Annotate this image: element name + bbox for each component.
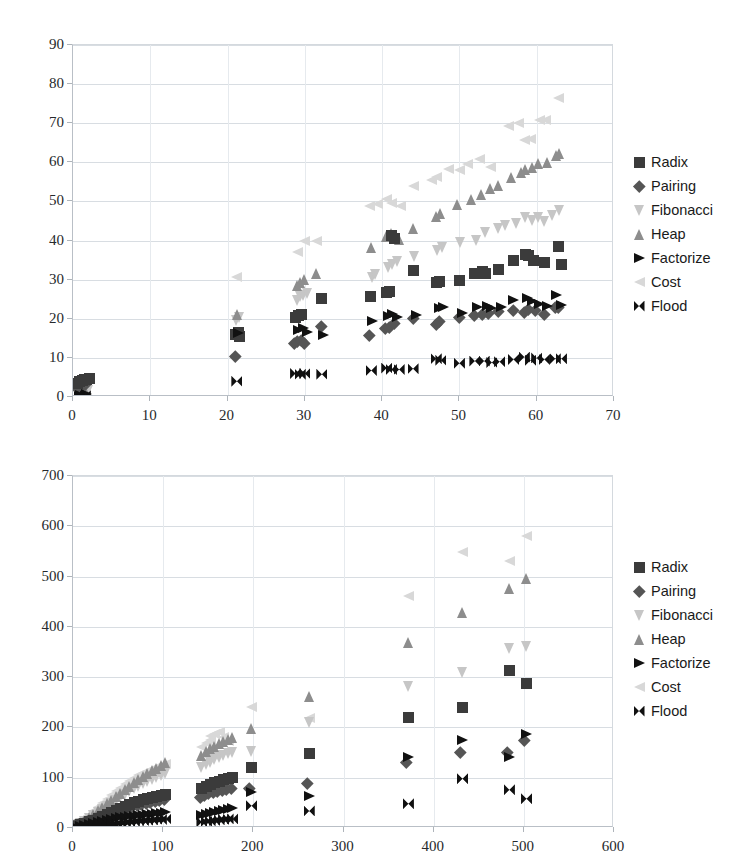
data-point-fibonacci: [403, 681, 413, 692]
data-point-heap: [102, 798, 112, 809]
data-point-flood: [403, 798, 414, 809]
data-point-pairing: [99, 810, 111, 822]
data-point-radix: [205, 779, 216, 790]
x-axis-tick-label: 20: [202, 408, 252, 423]
x-axis-tick-mark: [458, 396, 459, 401]
legend-item-flood[interactable]: Flood: [632, 294, 713, 318]
data-point-cost: [142, 766, 153, 776]
data-point-fibonacci: [392, 256, 402, 267]
data-point-flood: [394, 364, 405, 375]
data-point-fibonacci: [75, 818, 85, 827]
data-point-pairing: [81, 816, 93, 827]
legend-item-pairing[interactable]: Pairing: [632, 174, 713, 198]
x-axis-tick-mark: [149, 396, 150, 401]
data-point-cost: [84, 810, 95, 820]
y-axis-tick-mark: [67, 122, 72, 123]
legend-item-radix[interactable]: Radix: [632, 555, 713, 579]
gridline-x: [150, 45, 151, 395]
data-point-factorize: [79, 820, 90, 827]
data-point-flood: [408, 363, 419, 374]
data-point-fibonacci: [93, 807, 103, 818]
legend-item-radix[interactable]: Radix: [632, 150, 713, 174]
gridline-y: [73, 526, 612, 527]
data-point-factorize: [201, 809, 212, 819]
y-axis-tick-label: 30: [20, 272, 64, 287]
x-axis-tick-label: 300: [318, 839, 368, 854]
data-point-factorize: [205, 808, 216, 818]
data-point-factorize: [156, 808, 167, 818]
data-point-heap: [533, 158, 543, 169]
data-point-fibonacci: [480, 227, 490, 238]
data-point-cost: [205, 731, 216, 741]
legend-item-cost[interactable]: Cost: [632, 675, 713, 699]
y-axis-tick-label: 20: [20, 311, 64, 326]
data-point-fibonacci: [84, 813, 94, 824]
data-point-factorize: [551, 290, 562, 300]
data-point-cost: [111, 786, 122, 796]
data-point-radix: [88, 815, 99, 826]
y-axis-tick-mark: [67, 44, 72, 45]
data-point-heap: [88, 809, 98, 820]
data-point-fibonacci: [83, 385, 93, 396]
gridline-x: [253, 476, 254, 826]
data-point-radix: [120, 801, 131, 812]
data-point-factorize: [120, 812, 131, 822]
legend-item-factorize[interactable]: Factorize: [632, 246, 713, 270]
data-point-radix: [304, 748, 315, 759]
data-point-factorize: [147, 809, 158, 819]
legend-item-factorize[interactable]: Factorize: [632, 651, 713, 675]
data-point-radix: [79, 818, 90, 827]
data-point-factorize: [304, 791, 315, 801]
data-point-heap: [292, 280, 302, 291]
square-marker-icon: [632, 155, 646, 169]
legend-item-heap[interactable]: Heap: [632, 222, 713, 246]
data-point-heap: [521, 573, 531, 584]
legend-item-cost[interactable]: Cost: [632, 270, 713, 294]
data-point-heap: [133, 774, 143, 785]
data-point-cost: [386, 198, 397, 208]
chart-top: 0102030405060708090010203040506070RadixP…: [0, 0, 752, 431]
data-point-radix: [115, 803, 126, 814]
legend-item-label: Pairing: [651, 178, 696, 194]
data-point-heap: [408, 223, 418, 234]
gridline-x: [305, 45, 306, 395]
data-point-pairing: [79, 378, 91, 390]
data-point-factorize: [160, 807, 171, 817]
data-point-cost: [553, 93, 564, 103]
legend-item-label: Radix: [651, 559, 688, 575]
legend-item-heap[interactable]: Heap: [632, 627, 713, 651]
legend-item-fibonacci[interactable]: Fibonacci: [632, 603, 713, 627]
data-point-fibonacci: [455, 237, 465, 248]
data-point-flood: [508, 354, 519, 365]
data-point-radix: [124, 799, 135, 810]
y-axis-tick-mark: [67, 777, 72, 778]
data-point-radix: [230, 329, 241, 340]
legend-item-flood[interactable]: Flood: [632, 699, 713, 723]
data-point-heap: [227, 732, 237, 743]
data-point-fibonacci: [292, 295, 302, 306]
legend-item-label: Radix: [651, 154, 688, 170]
legend-item-label: Fibonacci: [651, 607, 713, 623]
data-point-cost: [519, 135, 530, 145]
legend-item-label: Factorize: [651, 655, 711, 671]
data-point-cost: [231, 272, 242, 282]
data-point-flood: [133, 815, 144, 826]
data-point-heap: [84, 812, 94, 823]
data-point-pairing: [289, 338, 301, 350]
data-point-pairing: [492, 305, 504, 317]
data-point-radix: [504, 665, 515, 676]
x-axis-tick-mark: [433, 827, 434, 832]
legend-item-pairing[interactable]: Pairing: [632, 579, 713, 603]
data-point-fibonacci: [432, 245, 442, 256]
gridline-x: [344, 476, 345, 826]
data-point-pairing: [72, 818, 84, 827]
x-axis-tick-label: 40: [356, 408, 406, 423]
legend-item-label: Heap: [651, 226, 686, 242]
data-point-pairing: [225, 782, 237, 794]
data-point-pairing: [483, 307, 495, 319]
data-point-radix: [209, 777, 220, 788]
plot-bottom: 0100200300400500600700010020030040050060…: [0, 431, 752, 862]
x-axis-tick-label: 500: [498, 839, 548, 854]
legend-item-fibonacci[interactable]: Fibonacci: [632, 198, 713, 222]
gridline-y: [73, 123, 612, 124]
